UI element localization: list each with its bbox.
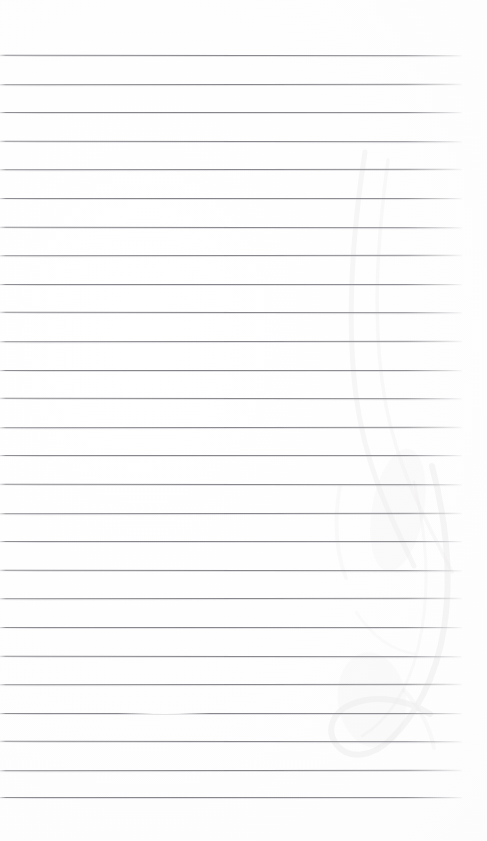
rule-line [0,655,462,656]
rule-line [0,370,462,371]
rule-line [0,398,462,399]
erased-line-segment [118,712,210,716]
rule-line [0,427,462,428]
rule-line [0,598,462,599]
rule-line [0,570,462,571]
rule-line [0,797,462,798]
rule-line [0,312,462,313]
rule-line [0,112,462,113]
rule-line [0,741,462,742]
rule-line [0,169,462,170]
rule-line [0,55,462,56]
rule-line [0,198,462,199]
ruled-lines [0,0,487,841]
rule-line [0,541,462,542]
rule-line [0,455,462,456]
rule-line [0,141,462,142]
rule-line [0,484,462,485]
rule-line [0,341,462,342]
notebook-page [0,0,487,841]
rule-line [0,770,462,771]
rule-line [0,684,462,685]
rule-line [0,512,462,513]
rule-line [0,226,462,227]
rule-line [0,83,462,84]
rule-line [0,713,462,714]
rule-line [0,255,462,256]
rule-line [0,627,462,628]
rule-line [0,284,462,285]
